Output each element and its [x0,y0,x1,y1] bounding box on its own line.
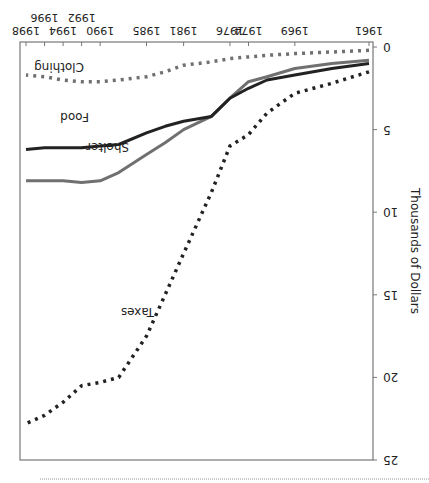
x-tick-label: 1985 [133,24,161,37]
label-taxes: Taxes [121,305,155,319]
x-tick-label: 1994 [49,24,77,37]
line-chart: 0510152025 19611969197419761981198519901… [0,0,429,483]
x-axis: 1961196919741976198119851990199219941996… [12,11,383,46]
x-tick-label: 1969 [281,24,309,37]
plot-frame [20,42,373,460]
x-tick-label: 1961 [355,24,383,37]
label-shelter: Shelter [86,140,129,154]
x-tick-label: 1996 [31,11,59,24]
series-food [26,64,369,150]
series-lines [26,50,369,423]
y-tick-label: 15 [383,288,398,302]
y-tick-label: 20 [383,370,398,384]
y-tick-label: 25 [383,453,398,467]
y-tick-label: 5 [383,123,391,137]
x-tick-label: 1992 [68,11,96,24]
x-tick-label: 1990 [86,24,114,37]
x-tick-label: 1976 [216,24,244,37]
x-tick-label: 1981 [170,24,198,37]
label-food: Food [60,110,89,124]
x-tick-label: 1998 [12,24,40,37]
y-axis: 0510152025 [373,40,398,467]
label-clothing: Clothing [34,60,84,74]
chart-figure: 0510152025 19611969197419761981198519901… [0,0,429,483]
y-tick-label: 0 [383,40,391,54]
y-axis-label: Thousands of Dollars [408,187,422,314]
y-tick-label: 10 [383,205,398,219]
